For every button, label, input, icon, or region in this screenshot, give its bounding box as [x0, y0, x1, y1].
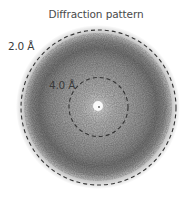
diffraction-pattern: [0, 0, 190, 202]
beam-center-dot: [98, 106, 100, 108]
ring-label-2-0: 2.0 Å: [8, 40, 34, 52]
ring-label-4-0: 4.0 Å: [49, 79, 75, 91]
beam-center-spot: [93, 101, 103, 111]
